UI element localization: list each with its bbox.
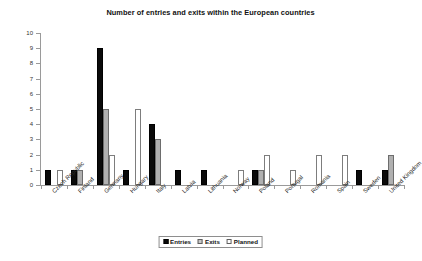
x-axis-tick bbox=[352, 186, 353, 189]
y-axis-tick-label: 2 bbox=[16, 152, 33, 158]
y-axis-tick-label: 0 bbox=[16, 182, 33, 188]
y-axis-tick bbox=[36, 79, 40, 80]
legend-item-exits: Exits bbox=[198, 238, 220, 245]
y-axis-tick-label: 9 bbox=[16, 45, 33, 51]
legend-label: Planned bbox=[234, 238, 258, 245]
y-axis-tick bbox=[36, 33, 40, 34]
x-axis-tick bbox=[248, 186, 249, 189]
y-axis-tick bbox=[36, 170, 40, 171]
legend-swatch-entries-icon bbox=[163, 239, 168, 244]
bar-planned-hungary bbox=[135, 109, 141, 185]
bar-exits-united-kingdom bbox=[388, 155, 394, 185]
x-axis-tick bbox=[67, 186, 68, 189]
x-axis-tick bbox=[223, 186, 224, 189]
y-axis-tick bbox=[36, 63, 40, 64]
y-axis-tick-label: 7 bbox=[16, 76, 33, 82]
y-axis-tick bbox=[36, 155, 40, 156]
bar-entries-czech-republic bbox=[45, 170, 51, 185]
x-axis-tick bbox=[197, 186, 198, 189]
x-axis-tick bbox=[378, 186, 379, 189]
y-axis-tick-label: 5 bbox=[16, 106, 33, 112]
bar-entries-sweden bbox=[356, 170, 362, 185]
y-axis-tick bbox=[36, 109, 40, 110]
x-axis-tick bbox=[171, 186, 172, 189]
x-axis-tick bbox=[300, 186, 301, 189]
y-axis-tick bbox=[36, 185, 40, 186]
x-axis-tick bbox=[119, 186, 120, 189]
chart-title: Number of entries and exits within the E… bbox=[0, 8, 421, 17]
bar-exits-italy bbox=[155, 139, 161, 185]
y-axis-tick-label: 4 bbox=[16, 121, 33, 127]
bar-entries-lithuania bbox=[201, 170, 207, 185]
legend-swatch-planned-icon bbox=[227, 239, 232, 244]
x-axis-tick bbox=[93, 186, 94, 189]
legend-swatch-exits-icon bbox=[198, 239, 203, 244]
x-axis-tick bbox=[404, 186, 405, 189]
x-axis-tick bbox=[145, 186, 146, 189]
y-axis-tick-label: 6 bbox=[16, 91, 33, 97]
x-axis-tick bbox=[41, 186, 42, 189]
y-axis-tick bbox=[36, 48, 40, 49]
plot-area bbox=[41, 33, 404, 185]
y-axis-tick-label: 8 bbox=[16, 60, 33, 66]
legend-item-planned: Planned bbox=[227, 238, 258, 245]
bar-exits-finland bbox=[77, 170, 83, 185]
y-axis-tick bbox=[36, 124, 40, 125]
x-axis-tick bbox=[274, 186, 275, 189]
y-axis-tick-label: 10 bbox=[16, 30, 33, 36]
x-axis-tick bbox=[326, 186, 327, 189]
y-axis-tick bbox=[36, 94, 40, 95]
y-axis-tick-label: 1 bbox=[16, 167, 33, 173]
bar-entries-latvia bbox=[175, 170, 181, 185]
y-axis-tick bbox=[36, 139, 40, 140]
legend-label: Exits bbox=[205, 238, 220, 245]
legend-label: Entries bbox=[170, 238, 191, 245]
legend-item-entries: Entries bbox=[163, 238, 191, 245]
y-axis-tick-label: 3 bbox=[16, 136, 33, 142]
chart-legend: EntriesExitsPlanned bbox=[158, 236, 263, 248]
